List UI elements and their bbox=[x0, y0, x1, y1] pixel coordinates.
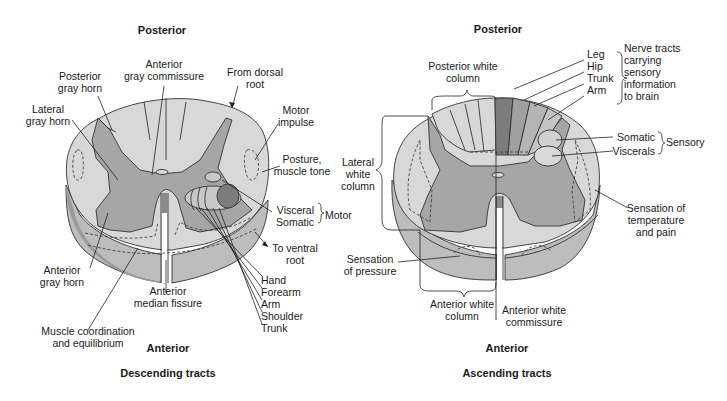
visceral-area bbox=[534, 146, 562, 166]
central-canal bbox=[492, 173, 504, 178]
svg-text:muscle tone: muscle tone bbox=[274, 165, 331, 177]
svg-text:temperature: temperature bbox=[628, 214, 685, 226]
label-posterior-white-column: Posterior white bbox=[428, 60, 498, 72]
descending-caption: Descending tracts bbox=[120, 367, 215, 379]
label-sensory: Sensory bbox=[666, 136, 705, 148]
label-anterior-gray-commissure: Anterior bbox=[146, 58, 183, 70]
tract-arm: Arm bbox=[587, 84, 607, 96]
svg-text:column: column bbox=[341, 180, 375, 192]
ascending-caption: Ascending tracts bbox=[462, 367, 551, 379]
label-muscle-coordination: Muscle coordination bbox=[41, 325, 135, 337]
ascending-posterior-label: Posterior bbox=[474, 23, 523, 35]
svg-text:to brain: to brain bbox=[624, 90, 659, 102]
label-motor-impulse: Motor bbox=[283, 104, 310, 116]
ascending-tracts-figure: Posterior Anterior Ascending tracts Post… bbox=[341, 23, 705, 379]
svg-text:sensory: sensory bbox=[624, 66, 662, 78]
svg-text:median fissure: median fissure bbox=[134, 297, 202, 309]
svg-text:gray commissure: gray commissure bbox=[124, 70, 204, 82]
svg-text:carrying: carrying bbox=[624, 54, 662, 66]
descending-tracts-figure: Posterior Anterior Descending tracts Pos… bbox=[26, 24, 353, 379]
svg-text:gray horn: gray horn bbox=[40, 276, 85, 288]
svg-text:root: root bbox=[246, 78, 264, 90]
svg-text:white: white bbox=[345, 168, 371, 180]
tract-forearm: Forearm bbox=[261, 286, 301, 298]
tract-hip: Hip bbox=[587, 60, 603, 72]
label-posterior-gray-horn: Posterior bbox=[59, 70, 102, 82]
label-from-dorsal-root: From dorsal bbox=[227, 66, 283, 78]
tract-arm: Arm bbox=[261, 298, 281, 310]
tract-hand: Hand bbox=[261, 274, 286, 286]
tract-leg: Leg bbox=[587, 48, 605, 60]
label-sensation-temperature: Sensation of bbox=[627, 202, 685, 214]
svg-text:and equilibrium: and equilibrium bbox=[52, 337, 123, 349]
ascending-anterior-label: Anterior bbox=[486, 342, 530, 354]
label-somatic: Somatic bbox=[276, 216, 314, 228]
tract-trunk: Trunk bbox=[261, 322, 288, 334]
label-motor: Motor bbox=[325, 209, 352, 221]
label-anterior-white-commissure: Anterior white bbox=[502, 304, 566, 316]
label-anterior-white-column: Anterior white bbox=[430, 298, 494, 310]
svg-text:column: column bbox=[445, 310, 479, 322]
svg-text:gray horn: gray horn bbox=[26, 115, 71, 127]
label-anterior-median-fissure: Anterior bbox=[150, 285, 187, 297]
label-somatic: Somatic bbox=[617, 131, 655, 143]
tract-trunk: Trunk bbox=[587, 72, 614, 84]
label-visceral: Visceral bbox=[277, 204, 314, 216]
tract-shoulder: Shoulder bbox=[261, 310, 304, 322]
label-nerve-tracts: Nerve tracts bbox=[624, 42, 681, 54]
svg-text:column: column bbox=[446, 72, 480, 84]
spinal-cord-diagram: Posterior Anterior Descending tracts Pos… bbox=[0, 0, 727, 401]
label-posture: Posture, bbox=[282, 153, 321, 165]
label-to-ventral-root: To ventral bbox=[272, 242, 318, 254]
sensory-brace bbox=[658, 132, 665, 154]
svg-text:gray horn: gray horn bbox=[58, 82, 103, 94]
svg-text:impulse: impulse bbox=[278, 116, 314, 128]
descending-anterior-label: Anterior bbox=[147, 342, 191, 354]
svg-text:commissure: commissure bbox=[506, 316, 563, 328]
label-lateral-gray-horn: Lateral bbox=[32, 103, 64, 115]
label-viscerals: Viscerals bbox=[613, 145, 655, 157]
svg-text:information: information bbox=[624, 78, 676, 90]
label-sensation-pressure: Sensation bbox=[347, 253, 394, 265]
motor-brace bbox=[318, 203, 324, 223]
svg-text:root: root bbox=[286, 254, 304, 266]
svg-text:and pain: and pain bbox=[636, 226, 676, 238]
label-lateral-white-column: Lateral bbox=[342, 156, 374, 168]
svg-text:of pressure: of pressure bbox=[344, 265, 397, 277]
label-anterior-gray-horn: Anterior bbox=[44, 264, 81, 276]
descending-posterior-label: Posterior bbox=[138, 24, 187, 36]
central-canal bbox=[156, 170, 168, 175]
